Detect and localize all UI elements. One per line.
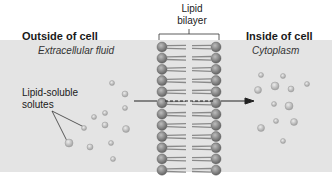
phospholipid-head [157,132,167,142]
solutes-outside [65,81,130,162]
diffusion-arrow [134,98,254,104]
phospholipid-head [211,120,221,130]
lipid-bilayer [157,42,221,175]
phospholipid-head [211,98,221,108]
phospholipid-head [211,64,221,74]
phospholipid-head [157,87,167,97]
phospholipid-head [211,53,221,63]
phospholipid-head [157,143,167,153]
phospholipid-head [157,154,167,164]
phospholipid-head [157,109,167,119]
phospholipid-head [157,165,167,175]
phospholipid-head [157,98,167,108]
phospholipid-head [211,109,221,119]
membrane-diagram [0,0,332,186]
phospholipid-head [211,143,221,153]
phospholipid-head [157,120,167,130]
phospholipid-head [211,76,221,86]
bilayer-bracket [159,29,219,40]
solutes-inside [255,73,310,144]
phospholipid-head [211,165,221,175]
phospholipid-head [157,64,167,74]
phospholipid-head [211,87,221,97]
phospholipid-head [211,132,221,142]
solute-leader-lines [52,111,84,143]
phospholipid-head [211,154,221,164]
phospholipid-head [157,42,167,52]
phospholipid-head [157,53,167,63]
phospholipid-head [157,76,167,86]
phospholipid-head [211,42,221,52]
